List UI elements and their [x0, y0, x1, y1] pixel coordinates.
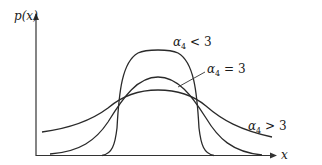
- kurtosis-diagram: p(x) x α4 < 3 α4 = 3 α4 > 3: [0, 0, 322, 165]
- curve-platykurtic: [102, 50, 214, 156]
- label-leptokurtic-rel: > 3: [261, 119, 286, 133]
- label-normal: α4 = 3: [207, 63, 246, 78]
- label-platykurtic-base: α: [173, 35, 181, 49]
- label-leptokurtic-base: α: [248, 119, 256, 133]
- label-platykurtic-rel: < 3: [186, 35, 211, 49]
- x-axis-label: x: [281, 149, 288, 161]
- curve-leptokurtic: [42, 90, 272, 137]
- y-axis-label: p(x): [14, 10, 38, 22]
- label-normal-rel: = 3: [220, 62, 245, 76]
- label-normal-base: α: [207, 62, 215, 76]
- label-platykurtic: α4 < 3: [173, 36, 212, 51]
- diagram-canvas: [0, 0, 322, 165]
- label-leptokurtic: α4 > 3: [248, 120, 287, 135]
- curve-normal: [50, 77, 262, 155]
